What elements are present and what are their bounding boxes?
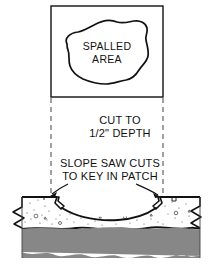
plan-view-group: SPALLED AREA xyxy=(51,6,163,97)
leader-line-right xyxy=(136,184,158,195)
spall-repair-detail-svg: SPALLED AREA CUT TO 1/2" DEPTH SLOPE SAW… xyxy=(0,0,214,265)
plan-label-line1: SPALLED xyxy=(83,40,132,52)
detail-drawing-page: SPALLED AREA CUT TO 1/2" DEPTH SLOPE SAW… xyxy=(0,0,214,265)
leader-arrows-group xyxy=(50,184,161,198)
cut-depth-line1: CUT TO xyxy=(99,114,141,126)
subgrade-crosshatch xyxy=(18,226,204,262)
projection-lines-group xyxy=(51,98,163,197)
cut-depth-line2: 1/2" DEPTH xyxy=(89,127,151,139)
leader-line-left xyxy=(52,184,68,194)
plan-label-line2: AREA xyxy=(92,53,122,65)
annotation-slope-cuts: SLOPE SAW CUTS TO KEY IN PATCH xyxy=(60,157,160,182)
annotation-cut-depth: CUT TO 1/2" DEPTH xyxy=(89,114,151,139)
slope-cuts-line1: SLOPE SAW CUTS xyxy=(60,157,160,169)
section-view-group xyxy=(13,197,204,262)
slope-cuts-line2: TO KEY IN PATCH xyxy=(62,170,158,182)
